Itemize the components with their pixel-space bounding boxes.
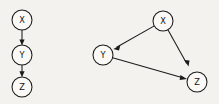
node-left-y: Y (12, 45, 32, 65)
figure-canvas: X Y Z (0, 0, 219, 104)
node-label-ry: Y (99, 50, 106, 60)
edge-line-ry-rz (113, 58, 184, 78)
node-label-y: Y (18, 50, 25, 60)
node-label-z: Z (19, 82, 25, 92)
arrowhead-y-z (19, 71, 24, 77)
node-left-z: Z (12, 77, 32, 97)
edge-right-x-to-z (168, 30, 190, 67)
node-right-x: X (153, 11, 173, 31)
arrowhead-ry-rz (180, 75, 187, 80)
node-label-rx: X (160, 16, 166, 26)
edge-left-y-to-z (19, 65, 24, 77)
edge-left-x-to-y (19, 30, 24, 46)
node-right-z: Z (187, 72, 207, 92)
left-graph: X Y Z (12, 10, 32, 97)
node-left-x: X (12, 10, 32, 30)
node-right-y: Y (93, 45, 113, 65)
node-label-rz: Z (194, 77, 200, 87)
edge-line-rx-rz (168, 30, 187, 64)
edge-right-x-to-y (113, 26, 154, 51)
edge-line-rx-ry (117, 26, 155, 47)
dag-diagram-svg: X Y Z (0, 0, 219, 104)
arrowhead-rx-rz (184, 60, 189, 67)
edge-right-y-to-z (113, 58, 187, 80)
node-label-x: X (19, 15, 25, 25)
arrowhead-rx-ry (113, 45, 120, 50)
right-graph: X Y Z (93, 11, 207, 92)
